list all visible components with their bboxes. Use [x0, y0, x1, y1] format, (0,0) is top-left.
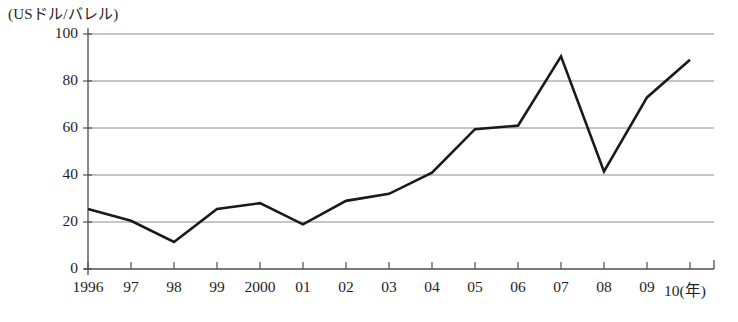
x-tick-label-04: 04	[424, 278, 440, 296]
x-tick-label-97: 97	[123, 278, 139, 296]
x-tick-label-07: 07	[553, 278, 569, 296]
x-tick-label-08: 08	[596, 278, 612, 296]
x-tick-label-01: 01	[295, 278, 311, 296]
y-tick-label-80: 80	[38, 71, 78, 89]
data-series-line	[88, 56, 690, 242]
x-tick-label-10: 10(年)	[664, 278, 706, 300]
chart-plot-area	[0, 0, 738, 322]
x-tick-label-98: 98	[166, 278, 182, 296]
y-tick-label-60: 60	[38, 118, 78, 136]
x-tick-label-99: 99	[209, 278, 225, 296]
y-tick-label-20: 20	[38, 212, 78, 230]
x-tick-label-03: 03	[381, 278, 397, 296]
y-tick-label-100: 100	[38, 24, 78, 42]
x-axis-ticks	[88, 262, 690, 269]
x-tick-label-2000: 2000	[245, 278, 276, 296]
x-tick-label-06: 06	[510, 278, 526, 296]
x-tick-label-1996: 1996	[73, 278, 104, 296]
y-tick-label-0: 0	[38, 259, 78, 277]
x-tick-label-09: 09	[639, 278, 655, 296]
x-tick-label-02: 02	[338, 278, 354, 296]
gridlines	[88, 34, 714, 222]
crude-oil-price-line-chart: (USドル/バレル) 020406080100 1996979899200001…	[0, 0, 738, 322]
y-tick-label-40: 40	[38, 165, 78, 183]
x-tick-label-05: 05	[467, 278, 483, 296]
